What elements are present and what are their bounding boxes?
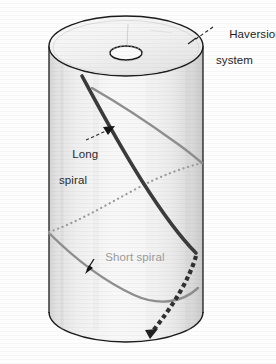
haversion-line-2: system [216,54,276,67]
short-spiral-line-1: Short spiral [105,251,164,263]
osteon-spiral-figure: Haversion system Long spiral Short spira… [0,0,276,364]
haversion-line-1: Haversion [229,28,276,40]
long-spiral-line-2: spiral [59,174,98,187]
label-long-spiral: Long spiral [59,135,98,212]
long-spiral-line-1: Long [72,148,98,160]
label-haversion-system: Haversion system [216,15,276,92]
label-short-spiral: Short spiral [92,238,165,277]
